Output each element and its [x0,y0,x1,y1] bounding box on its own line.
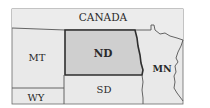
label-sd: SD [97,84,112,95]
label-wy: WY [28,92,45,103]
label-mn: MN [152,63,172,74]
regional-map: CANADA ND MT MN SD WY [0,0,210,108]
label-canada: CANADA [79,11,128,23]
label-mt: MT [29,52,46,63]
label-nd: ND [94,47,113,59]
